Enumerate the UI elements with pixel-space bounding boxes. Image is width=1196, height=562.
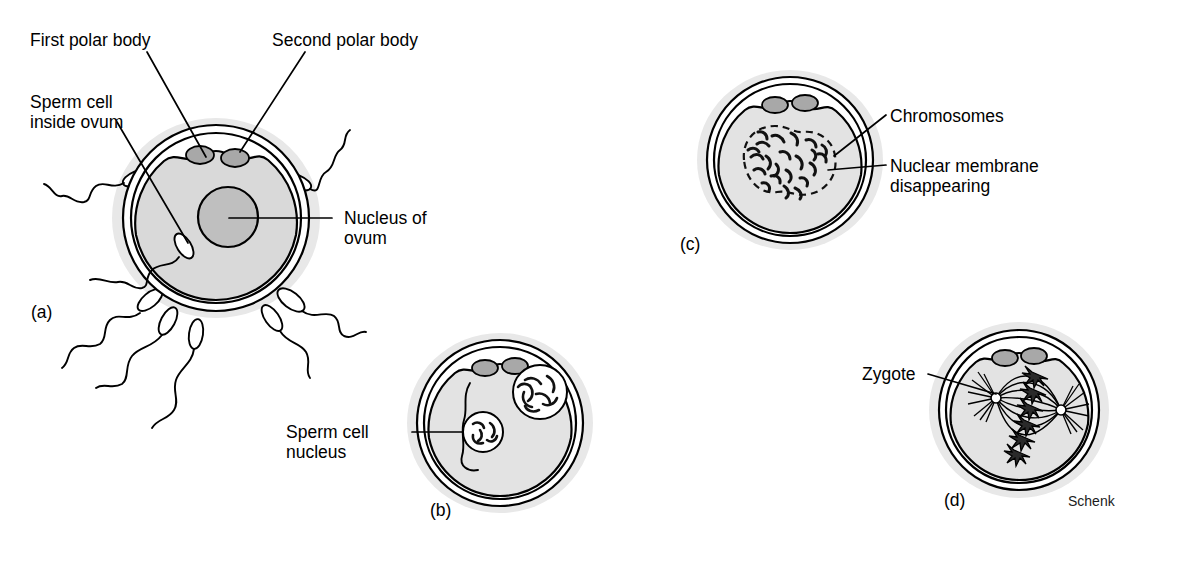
sperm-head: [155, 304, 181, 337]
first-polar-body-c: [762, 97, 788, 113]
ovum-cytoplasm-c: [718, 101, 861, 233]
panel-label-c: (c): [680, 234, 700, 254]
panel-label-d: (d): [944, 490, 965, 510]
ovum-nucleus-membrane-b: [513, 365, 567, 419]
sperm-tail: [62, 313, 140, 368]
panel-a: First polar body Second polar body Sperm…: [30, 30, 427, 428]
sperm-tail: [96, 335, 162, 388]
fertilization-figure: First polar body Second polar body Sperm…: [0, 0, 1196, 562]
label-nucleus-of-ovum-line1: Nucleus of: [344, 208, 427, 228]
second-polar-body-d: [1021, 348, 1047, 364]
label-sperm-cell-nucleus-line2: nucleus: [286, 442, 347, 462]
sperm-cell: [96, 304, 181, 388]
artist-credit: Schenk: [1068, 493, 1116, 509]
sperm-cell: [62, 285, 166, 368]
label-nucleus-of-ovum-line2: ovum: [344, 228, 387, 248]
label-sperm-cell-nucleus-line1: Sperm cell: [286, 422, 369, 442]
sperm-tail: [44, 183, 124, 202]
sperm-tail: [280, 331, 310, 378]
second-polar-body-a: [221, 149, 249, 167]
sperm-tail: [302, 311, 366, 337]
panel-label-b: (b): [430, 500, 451, 520]
label-nuclear-membrane-line1: Nuclear membrane: [890, 156, 1039, 176]
sperm-cell: [273, 284, 366, 337]
ovum-nucleus-b: [513, 365, 567, 419]
sperm-head: [187, 318, 205, 350]
label-sperm-cell-inside-ovum-line2: inside ovum: [30, 112, 123, 132]
second-polar-body-c: [792, 95, 818, 111]
panel-b: Sperm cell nucleus (b): [286, 333, 593, 520]
label-sperm-cell-inside-ovum-line1: Sperm cell: [30, 92, 113, 112]
sperm-cell: [258, 302, 310, 378]
centrosome-right-d: [1056, 405, 1066, 415]
label-nuclear-membrane-line2: disappearing: [890, 176, 990, 196]
first-polar-body-d: [992, 350, 1018, 366]
first-polar-body-b: [472, 360, 498, 376]
first-polar-body-a: [186, 146, 214, 164]
sperm-nucleus-membrane-b: [463, 412, 503, 452]
panel-label-a: (a): [31, 302, 52, 322]
ovum-nucleus-a: [198, 187, 258, 247]
sperm-cell-nucleus-b: [463, 412, 503, 452]
label-chromosomes: Chromosomes: [890, 106, 1004, 126]
label-first-polar-body: First polar body: [30, 30, 151, 50]
label-zygote: Zygote: [862, 364, 916, 384]
panel-c: Chromosomes Nuclear membrane disappearin…: [680, 70, 1039, 254]
sperm-head: [258, 302, 287, 335]
label-second-polar-body: Second polar body: [272, 30, 418, 50]
figure-canvas: First polar body Second polar body Sperm…: [0, 0, 1196, 562]
sperm-tail: [310, 130, 350, 191]
panel-d: Zygote (d) Schenk: [862, 322, 1116, 510]
sperm-tail: [152, 349, 194, 428]
